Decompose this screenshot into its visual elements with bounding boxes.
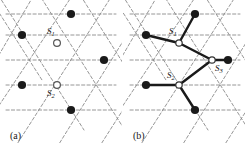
- lattice-line-d2: [0, 0, 42, 80]
- lattice-site-filled: [142, 31, 150, 39]
- lattice-line-d2: [72, 0, 122, 90]
- lattice-site-filled: [191, 10, 199, 18]
- label-s2: S2: [47, 88, 56, 99]
- spin-site-s2: [54, 82, 61, 89]
- open-sites-a: [54, 40, 61, 89]
- lattice-line-d1: [220, 58, 245, 143]
- lattice-site-filled: [18, 81, 26, 89]
- caption-a: (a): [10, 131, 21, 141]
- spin-site-s1: [176, 40, 182, 46]
- label-s3: S3: [215, 63, 224, 74]
- lattice-line-d2: [114, 0, 122, 42]
- filled-sites-a: [18, 10, 108, 114]
- label-s1: S1: [169, 26, 177, 37]
- bold-edge: [179, 60, 212, 85]
- lattice-grid-b: [123, 0, 245, 143]
- lattice-site-filled: [191, 106, 199, 114]
- lattice-site-filled: [100, 56, 108, 64]
- lattice-site-filled: [67, 10, 75, 18]
- lattice-grid-a: [0, 0, 122, 143]
- bold-path-b: [146, 14, 228, 110]
- spin-site-s2: [176, 82, 182, 88]
- lattice-site-filled: [67, 106, 75, 114]
- lattice-line-d1: [0, 0, 38, 60]
- lattice-line-d2: [196, 0, 245, 90]
- panel-b: S1 S2 S3 (b): [123, 0, 245, 143]
- lattice-line-d2: [238, 0, 245, 42]
- caption-b: (b): [133, 131, 145, 141]
- lattice-site-filled: [18, 31, 26, 39]
- lattice-line-d1: [123, 0, 162, 60]
- panel-a: S1 S2 (a): [0, 0, 122, 143]
- panel-b-canvas: S1 S2 S3: [123, 0, 245, 143]
- lattice-site-filled: [224, 56, 232, 64]
- lattice-line-d1: [12, 0, 122, 143]
- label-s2: S2: [167, 70, 176, 81]
- lattice-line-d2: [123, 0, 166, 80]
- bold-edge: [179, 85, 195, 110]
- panel-a-canvas: S1 S2: [0, 0, 122, 143]
- lattice-site-filled: [142, 81, 150, 89]
- lattice-line-d1: [96, 58, 122, 143]
- spin-site-s1: [54, 40, 61, 47]
- lattice-figure: S1 S2 (a): [0, 0, 245, 143]
- label-s1: S1: [47, 26, 55, 37]
